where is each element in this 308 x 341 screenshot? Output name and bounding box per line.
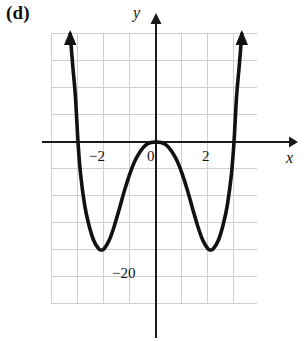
figure-panel-d: (d) y x −2 0 2 −20 (0, 0, 308, 341)
panel-label: (d) (6, 3, 30, 22)
x-tick-label-2: 2 (202, 149, 210, 164)
x-tick-label-neg2: −2 (89, 149, 105, 164)
x-axis-label: x (286, 150, 293, 166)
y-axis-label: y (133, 5, 140, 21)
graph-canvas (0, 0, 308, 341)
y-tick-label-neg20: −20 (112, 266, 135, 281)
x-tick-label-0: 0 (147, 149, 155, 164)
grid-lines (51, 33, 257, 304)
